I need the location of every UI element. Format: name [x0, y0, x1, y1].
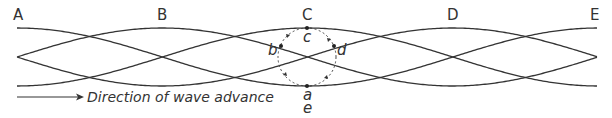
wave-diagram: A B C D E c b d a e Direction of wave ad…: [0, 0, 612, 118]
orbit-arrow-icon: [324, 75, 328, 79]
orbit-labels: c b d a e: [268, 28, 347, 117]
label-c: c: [303, 28, 312, 46]
label-d: d: [337, 41, 347, 59]
point-d: [332, 44, 336, 48]
label-e: e: [303, 99, 312, 117]
label-b: b: [268, 41, 278, 59]
label-E: E: [590, 6, 599, 24]
label-B: B: [157, 6, 167, 24]
direction-caption: Direction of wave advance: [87, 89, 274, 105]
point-b: [279, 44, 283, 48]
orbit-arrow-icon: [286, 34, 290, 38]
label-C: C: [302, 6, 312, 24]
label-D: D: [447, 6, 459, 24]
label-A: A: [13, 6, 24, 24]
direction-indicator: Direction of wave advance: [17, 89, 274, 105]
position-labels: A B C D E: [13, 6, 599, 24]
